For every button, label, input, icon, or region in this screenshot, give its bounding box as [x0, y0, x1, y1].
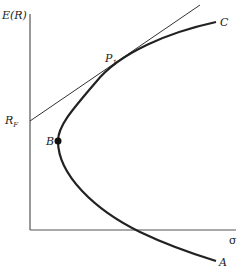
- efficient-frontier-diagram: E(R) σ RF P1 B C A: [0, 0, 250, 274]
- upper-end-label: C: [220, 16, 229, 29]
- tangent-point-label: P1: [104, 52, 117, 67]
- lower-end-label: A: [218, 256, 227, 269]
- risk-free-label: RF: [4, 114, 19, 129]
- min-variance-point: [55, 138, 62, 145]
- y-axis-label: E(R): [1, 9, 27, 22]
- x-axis-label: σ: [229, 234, 237, 247]
- min-variance-label: B: [45, 135, 54, 148]
- efficient-frontier-curve: [58, 22, 216, 261]
